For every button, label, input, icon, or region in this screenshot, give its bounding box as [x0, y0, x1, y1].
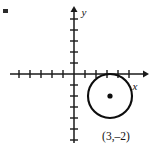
corner-mark: [3, 9, 8, 13]
x-axis-label: x: [132, 80, 138, 92]
x-axis: [10, 70, 149, 78]
center-point-label: (3,–2): [102, 130, 130, 143]
y-axis-label: y: [81, 6, 87, 18]
y-axis-arrow-icon: [71, 6, 78, 12]
coordinate-plane-diagram: x y (3,–2): [0, 0, 151, 146]
center-dot: [107, 93, 112, 98]
figure-root: x y (3,–2): [0, 0, 151, 146]
x-axis-arrow-icon: [143, 71, 149, 78]
